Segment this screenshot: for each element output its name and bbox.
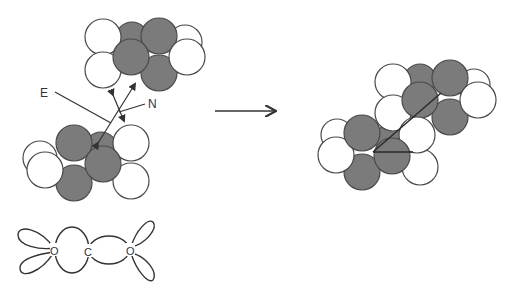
n-label: N [148, 97, 157, 111]
oxygen-right-label: O [126, 245, 135, 257]
oxygen-left-label: O [50, 245, 59, 257]
lobe-right-lower [131, 253, 154, 281]
e-vector-line [55, 92, 111, 123]
molecule-top-left [85, 18, 205, 91]
lobe-left-upper [18, 229, 54, 248]
n-vector-line [119, 104, 145, 112]
e-label: E [40, 86, 48, 100]
carbon-label: C [84, 246, 92, 258]
lobe-left-lower [20, 252, 54, 274]
co2-dimer-diagram: E N O C O [0, 0, 514, 305]
atom-right-front-gray [374, 138, 410, 174]
molecule-bottom-left [23, 125, 149, 201]
diagram-canvas: E N O C O [0, 0, 514, 305]
loop-co [89, 236, 129, 264]
